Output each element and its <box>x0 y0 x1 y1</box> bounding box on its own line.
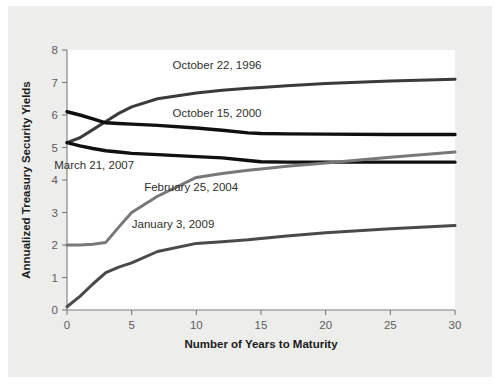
y-tick-label: 5 <box>52 142 58 154</box>
yield-curve-chart: 012345678 051015202530 October 22, 1996O… <box>0 0 500 389</box>
y-tick-label: 7 <box>52 77 58 89</box>
x-tick-label: 5 <box>128 319 134 331</box>
y-tick-label: 2 <box>52 239 58 251</box>
series-label: January 3, 2009 <box>132 218 214 230</box>
series-label: October 22, 1996 <box>173 59 262 71</box>
y-tick-label: 1 <box>52 272 58 284</box>
x-tick-label: 0 <box>64 319 70 331</box>
x-tick-label: 10 <box>190 319 203 331</box>
y-axis-title: Annualized Treasury Security Yields <box>20 81 32 279</box>
y-tick-label: 6 <box>52 109 58 121</box>
y-tick-label: 4 <box>52 174 59 186</box>
x-tick-label: 30 <box>449 319 462 331</box>
y-axis-ticks: 012345678 <box>52 44 67 316</box>
x-tick-label: 15 <box>255 319 268 331</box>
x-tick-label: 20 <box>319 319 332 331</box>
x-axis-title: Number of Years to Maturity <box>184 338 338 350</box>
series-label: March 21, 2007 <box>54 159 134 171</box>
x-tick-label: 25 <box>384 319 397 331</box>
plot-container: 012345678 051015202530 October 22, 1996O… <box>0 0 500 389</box>
chart-page: 012345678 051015202530 October 22, 1996O… <box>0 0 500 389</box>
plot-area-background <box>67 50 455 310</box>
x-axis-ticks: 051015202530 <box>64 310 462 331</box>
series-label: February 25, 2004 <box>144 181 239 193</box>
series-label: October 15, 2000 <box>173 107 262 119</box>
y-tick-label: 0 <box>52 304 58 316</box>
y-tick-label: 8 <box>52 44 58 56</box>
y-tick-label: 3 <box>52 207 58 219</box>
